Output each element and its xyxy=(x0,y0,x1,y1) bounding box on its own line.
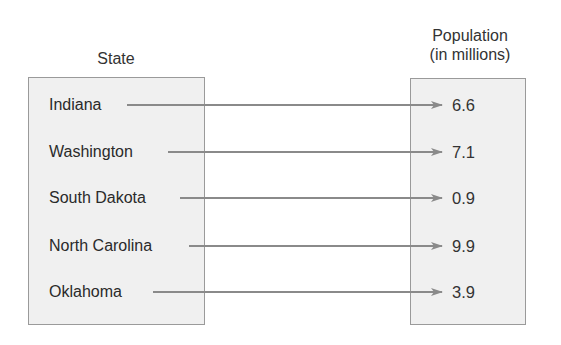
state-label-oklahoma: Oklahoma xyxy=(49,283,122,301)
state-label-indiana: Indiana xyxy=(49,96,102,114)
population-value-south-dakota: 0.9 xyxy=(452,189,475,207)
population-value-indiana: 6.6 xyxy=(452,96,475,114)
state-label-north-carolina: North Carolina xyxy=(49,237,152,255)
population-value-oklahoma: 3.9 xyxy=(452,283,475,301)
state-label-south-dakota: South Dakota xyxy=(49,189,146,207)
population-value-north-carolina: 9.9 xyxy=(452,237,475,255)
population-value-washington: 7.1 xyxy=(452,143,475,161)
state-label-washington: Washington xyxy=(49,143,133,161)
